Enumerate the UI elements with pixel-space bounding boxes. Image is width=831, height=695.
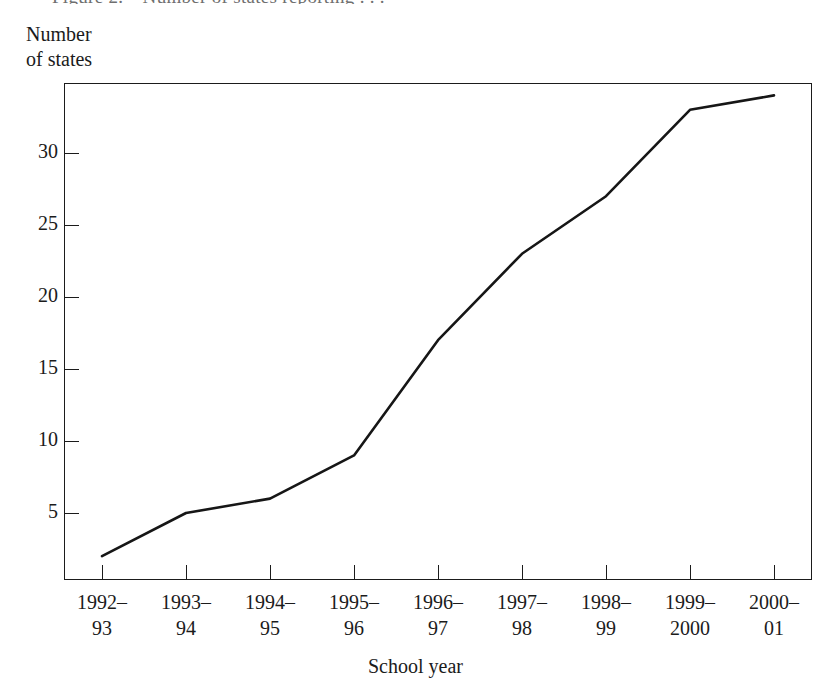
x-tick-label: 2000– 01 xyxy=(728,589,820,641)
y-tick-mark xyxy=(64,513,79,514)
figure-container: Figure 2.—Number of states reporting . .… xyxy=(0,0,831,695)
x-tick-mark xyxy=(606,565,607,580)
y-tick-label: 15 xyxy=(12,356,58,379)
y-tick-mark xyxy=(64,297,79,298)
y-tick-mark xyxy=(64,225,79,226)
x-tick-label: 1993– 94 xyxy=(140,589,232,641)
x-tick-mark xyxy=(438,565,439,580)
x-axis-title: School year xyxy=(0,655,831,678)
x-tick-mark xyxy=(522,565,523,580)
y-tick-mark xyxy=(64,441,79,442)
x-tick-label: 1994– 95 xyxy=(224,589,316,641)
x-tick-label: 1998– 99 xyxy=(560,589,652,641)
y-tick-label: 10 xyxy=(12,428,58,451)
y-tick-label: 20 xyxy=(12,284,58,307)
x-tick-mark xyxy=(102,565,103,580)
x-tick-mark xyxy=(690,565,691,580)
y-tick-label: 25 xyxy=(12,212,58,235)
cut-off-caption: Figure 2.—Number of states reporting . .… xyxy=(52,0,652,4)
y-tick-mark xyxy=(64,369,79,370)
y-tick-label: 30 xyxy=(12,140,58,163)
x-tick-label: 1992– 93 xyxy=(56,589,148,641)
x-tick-label: 1995– 96 xyxy=(308,589,400,641)
x-tick-label: 1999– 2000 xyxy=(644,589,736,641)
x-tick-label: 1996– 97 xyxy=(392,589,484,641)
y-tick-label: 5 xyxy=(12,500,58,523)
y-tick-mark xyxy=(64,153,79,154)
x-tick-mark xyxy=(186,565,187,580)
x-tick-label: 1997– 98 xyxy=(476,589,568,641)
x-tick-mark xyxy=(354,565,355,580)
plot-frame xyxy=(64,83,812,580)
x-tick-mark xyxy=(270,565,271,580)
y-axis-title: Number of states xyxy=(26,22,92,72)
x-tick-mark xyxy=(774,565,775,580)
